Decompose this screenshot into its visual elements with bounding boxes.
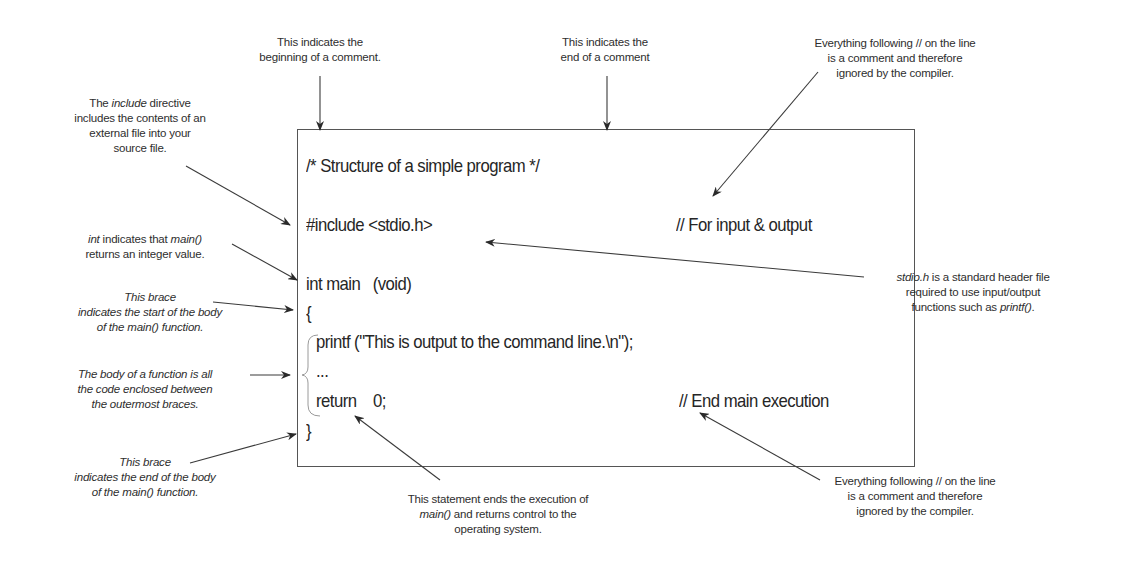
arrow-return	[355, 416, 440, 480]
arrows-layer	[0, 0, 1123, 570]
arrow-line-comment-bottom	[700, 413, 820, 480]
arrow-line-comment-top	[713, 72, 818, 196]
arrow-stdio	[486, 242, 864, 277]
body-brace-icon	[302, 335, 320, 416]
arrow-open-brace	[213, 302, 293, 310]
arrow-include	[186, 166, 290, 225]
arrow-int-main	[232, 244, 297, 280]
arrow-close-brace	[190, 434, 296, 463]
